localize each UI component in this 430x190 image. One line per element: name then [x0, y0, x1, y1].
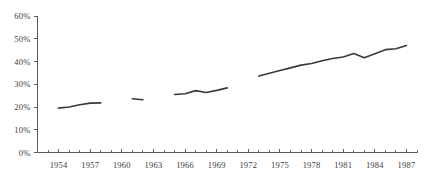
- y-tick-label: 40%: [14, 57, 30, 67]
- x-tick-label: 1966: [176, 160, 194, 170]
- x-tick-label: 1978: [303, 160, 321, 170]
- series-line-segment: [175, 88, 228, 95]
- x-tick-label: 1960: [113, 160, 131, 170]
- x-axis: [38, 149, 418, 153]
- x-tick-label: 1963: [145, 160, 163, 170]
- series-line-segment: [59, 103, 101, 108]
- y-tick-label: 30%: [14, 79, 30, 89]
- x-tick-label: 1969: [208, 160, 226, 170]
- x-tick-label: 1954: [50, 160, 68, 170]
- x-axis-tick-labels: 1954195719601963196619691972197519781981…: [50, 160, 416, 170]
- x-tick-label: 1972: [239, 160, 257, 170]
- y-tick-label: 60%: [14, 11, 30, 21]
- data-series: [59, 46, 407, 109]
- y-tick-label: 0%: [19, 148, 31, 158]
- line-chart: 0%10%20%30%40%50%60% 1954195719601963196…: [0, 0, 430, 190]
- x-tick-label: 1987: [398, 160, 416, 170]
- y-axis: [34, 16, 38, 153]
- chart-canvas: 0%10%20%30%40%50%60% 1954195719601963196…: [0, 0, 430, 190]
- y-axis-tick-labels: 0%10%20%30%40%50%60%: [14, 11, 30, 158]
- series-line-segment: [132, 99, 143, 100]
- x-tick-label: 1981: [334, 160, 352, 170]
- y-tick-label: 10%: [14, 125, 30, 135]
- series-line-segment: [259, 46, 407, 76]
- y-tick-label: 50%: [14, 34, 30, 44]
- x-tick-label: 1957: [81, 160, 99, 170]
- x-tick-label: 1984: [366, 160, 384, 170]
- y-tick-label: 20%: [14, 102, 30, 112]
- x-tick-label: 1975: [271, 160, 289, 170]
